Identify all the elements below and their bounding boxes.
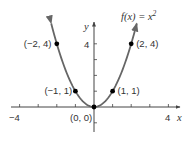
point-label: (0, 0) — [70, 112, 92, 123]
point-label: (2, 4) — [136, 38, 158, 49]
x-tick-label-neg4: −4 — [9, 112, 20, 123]
function-label-exponent: 2 — [153, 9, 157, 18]
y-axis-label: y — [83, 21, 89, 32]
point-label: (−2, 4) — [24, 38, 52, 49]
data-point — [110, 89, 115, 94]
function-label: f(x) = x2 — [121, 9, 157, 23]
point-label: (1, 1) — [118, 85, 140, 96]
data-point — [54, 41, 59, 46]
data-point — [129, 41, 134, 46]
parabola-chart: (−2, 4)(−1, 1)(0, 0)(1, 1)(2, 4) y x −4 … — [0, 0, 190, 144]
x-tick-label-4: 4 — [165, 112, 170, 123]
point-label: (−1, 1) — [44, 85, 72, 96]
labeled-points: (−2, 4)(−1, 1)(0, 0)(1, 1)(2, 4) — [24, 38, 159, 123]
y-tick-label-4: 4 — [84, 39, 89, 50]
data-point — [92, 105, 97, 110]
data-point — [73, 89, 78, 94]
x-axis-label: x — [176, 112, 182, 123]
function-label-base: f(x) = x — [121, 11, 153, 23]
